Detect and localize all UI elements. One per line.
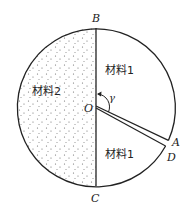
label-material-1-upper: 材料1: [105, 63, 134, 77]
label-material-1-lower: 材料1: [105, 147, 134, 161]
line-OD: [96, 108, 166, 146]
label-O: O: [84, 102, 93, 115]
label-C: C: [91, 192, 100, 205]
label-gamma: γ: [109, 92, 115, 103]
label-B: B: [91, 12, 100, 25]
label-A: A: [171, 136, 180, 149]
label-material-2: 材料2: [32, 84, 61, 98]
circle-diagram: B C O A D γ 材料1 材料2 材料1: [0, 0, 190, 211]
line-OA: [96, 106, 168, 140]
label-D: D: [166, 151, 176, 164]
gamma-arrow-icon: [97, 92, 102, 97]
